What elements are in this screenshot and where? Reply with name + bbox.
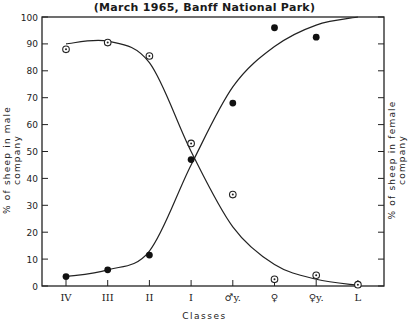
x-tick-label: III (102, 292, 114, 303)
male-data-point-center (315, 274, 317, 276)
x-tick-label: I (189, 292, 193, 303)
y-tick-label: 40 (27, 174, 39, 184)
male-data-point-center (357, 284, 359, 286)
x-tick-label: ♀y. (309, 292, 324, 303)
x-tick-label: ♀ (271, 292, 278, 303)
female-data-point (146, 252, 153, 259)
male-data-point-center (65, 48, 67, 50)
y-tick-label: 90 (27, 39, 39, 49)
x-tick-label: IV (60, 292, 72, 303)
female-data-point (229, 100, 236, 107)
male-data-point-center (274, 278, 276, 280)
female-company-curve (66, 17, 358, 277)
female-data-point (188, 156, 195, 163)
female-data-point (313, 34, 320, 41)
x-tick-label: L (355, 292, 362, 303)
female-data-point (104, 266, 111, 273)
female-data-point (63, 273, 70, 280)
plot-area: 0102030405060708090100IVIIIIII♂y.♀♀y.L (0, 0, 409, 327)
x-tick-label: II (145, 292, 153, 303)
female-data-point (271, 24, 278, 31)
y-tick-label: 100 (21, 13, 38, 23)
y-tick-label: 60 (27, 120, 39, 130)
y-tick-label: 30 (27, 201, 39, 211)
x-tick-label: ♂y. (225, 292, 241, 303)
male-data-point-center (148, 55, 150, 57)
y-tick-label: 0 (32, 282, 38, 292)
plot-frame (42, 17, 384, 286)
male-data-point-center (232, 194, 234, 196)
y-tick-label: 10 (27, 255, 39, 265)
male-data-point-center (190, 142, 192, 144)
y-tick-label: 20 (27, 228, 39, 238)
y-tick-label: 50 (27, 147, 39, 157)
y-tick-label: 70 (27, 93, 39, 103)
y-tick-label: 80 (27, 66, 39, 76)
male-data-point-center (107, 42, 109, 44)
chart-container: (March 1965, Banff National Park) % of s… (0, 0, 409, 327)
male-company-curve (66, 40, 358, 285)
